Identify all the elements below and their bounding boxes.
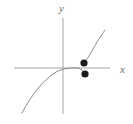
curve-right-branch: [84, 30, 105, 63]
math-graph-figure: x y: [0, 0, 133, 124]
graph-canvas: [0, 0, 133, 124]
curve-left-branch: [22, 68, 85, 113]
upper-endpoint-dot: [80, 59, 87, 66]
axes-group: [14, 18, 110, 114]
x-axis-label: x: [120, 64, 125, 75]
lower-endpoint-dot: [81, 70, 88, 77]
y-axis-label: y: [59, 3, 64, 14]
curve-group: [22, 30, 105, 113]
endpoint-markers-group: [80, 59, 88, 77]
